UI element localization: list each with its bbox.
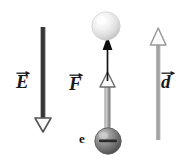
force-symbol: F [69,74,82,93]
target-sphere [92,12,120,40]
displacement-symbol: d [161,72,171,91]
physics-vector-figure: E F d e [0,0,188,162]
electron-label: e [79,132,85,145]
electric-field-arrow-head [35,118,51,132]
force-assembly [100,36,115,136]
minus-sign [99,139,117,142]
displacement-arrow-shaft [156,40,160,140]
electron-sphere [95,128,121,154]
force-label: F [69,74,82,93]
displacement-arrow-head [150,28,166,45]
electric-field-arrow-shaft [41,27,46,125]
electric-field-arrow [35,27,51,132]
electric-field-symbol: E [16,72,29,91]
displacement-label: d [161,72,171,91]
electric-field-label: E [16,72,29,91]
